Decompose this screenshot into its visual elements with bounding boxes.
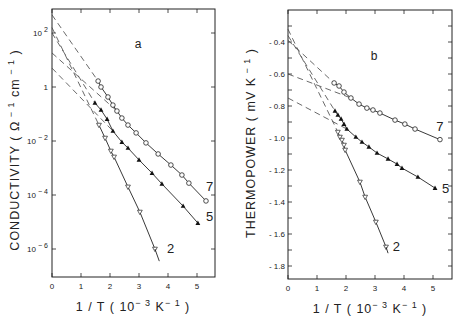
y-tick-label: - 1.4	[269, 198, 286, 207]
extrapolation-dashed-line	[52, 28, 99, 125]
y-tick-label: 10 2	[33, 26, 48, 38]
open-triangle-down-marker-icon	[112, 155, 117, 159]
y-tick-label: 10 − 6	[27, 242, 48, 254]
y-tick-label: - 0.4	[269, 38, 286, 47]
y-tick-label: - 1.2	[269, 166, 286, 175]
open-circle-marker-icon	[349, 96, 354, 101]
open-circle-marker-icon	[204, 199, 209, 204]
panel-b-thermopower-plot: 012345- 0.4- 0.6- 0.8- 1.0- 1.2- 1.4- 1.…	[242, 10, 452, 316]
series-7	[96, 79, 208, 203]
open-circle-marker-icon	[393, 118, 398, 123]
open-triangle-down-marker-icon	[97, 123, 102, 127]
open-triangle-down-marker-icon	[343, 148, 348, 152]
open-circle-marker-icon	[111, 103, 116, 108]
open-triangle-down-marker-icon	[103, 136, 108, 140]
y-tick-label: - 0.6	[269, 70, 286, 79]
filled-triangle-marker-icon	[344, 126, 349, 130]
series-label-7: 7	[436, 119, 443, 134]
filled-triangle-marker-icon	[333, 108, 338, 112]
series-line	[334, 83, 440, 140]
x-tick-label: 5	[431, 284, 436, 293]
series-line	[335, 111, 435, 188]
open-triangle-down-marker-icon	[108, 149, 113, 153]
series-7	[332, 81, 442, 142]
x-tick-label: 0	[286, 284, 291, 293]
open-circle-marker-icon	[120, 116, 125, 121]
y-tick-label: - 0.8	[269, 102, 286, 111]
open-circle-marker-icon	[134, 131, 139, 136]
open-circle-marker-icon	[342, 90, 347, 95]
open-circle-marker-icon	[337, 84, 342, 89]
open-circle-marker-icon	[144, 141, 149, 146]
series-label-7: 7	[206, 179, 213, 194]
open-circle-marker-icon	[126, 123, 131, 128]
open-circle-marker-icon	[413, 127, 418, 132]
open-circle-marker-icon	[156, 152, 161, 157]
x-tick-label: 4	[402, 284, 407, 293]
x-axis-label: 1 / T ( 10− 3 K− 1 )	[76, 298, 191, 314]
open-circle-marker-icon	[371, 108, 376, 113]
open-circle-marker-icon	[169, 163, 174, 168]
open-triangle-down-marker-icon	[342, 143, 347, 147]
filled-triangle-marker-icon	[93, 100, 98, 104]
plot-frame	[52, 9, 215, 277]
open-circle-marker-icon	[187, 181, 192, 186]
series-label-5: 5	[442, 181, 449, 196]
open-circle-marker-icon	[378, 111, 383, 116]
open-triangle-down-marker-icon	[340, 138, 345, 142]
series-line-tail	[155, 249, 159, 261]
x-tick-label: 1	[79, 282, 84, 291]
panel-letter-b: b	[371, 49, 378, 63]
series-label-2: 2	[167, 241, 174, 256]
filled-triangle-marker-icon	[367, 144, 372, 148]
y-axis-label: THERMOPOWER ( mV K − 1 )	[242, 48, 258, 238]
extrapolation-dashed-line	[288, 29, 338, 132]
y-tick-label: 10 − 2	[27, 134, 48, 146]
extrapolation-dashed-line	[288, 36, 335, 111]
series-2	[335, 130, 388, 249]
filled-triangle-marker-icon	[342, 121, 347, 125]
open-circle-marker-icon	[403, 122, 408, 127]
open-circle-marker-icon	[357, 102, 362, 107]
extrapolation-dashed-line	[52, 68, 113, 131]
open-triangle-down-marker-icon	[363, 195, 368, 199]
x-tick-label: 0	[50, 282, 55, 291]
y-tick-label: 10 − 4	[27, 188, 48, 200]
open-triangle-down-marker-icon	[137, 210, 142, 214]
series-5	[333, 108, 438, 190]
filled-triangle-marker-icon	[375, 150, 380, 154]
open-circle-marker-icon	[99, 85, 104, 90]
x-tick-label: 5	[195, 282, 200, 291]
x-tick-label: 3	[137, 282, 142, 291]
extrapolation-dashed-line	[52, 33, 95, 103]
y-tick-label: - 1.8	[269, 262, 286, 271]
filled-triangle-marker-icon	[416, 174, 421, 178]
panel-a-conductivity-plot: 01234510 2110 − 210 − 410 − 6752aCONDUCT…	[6, 9, 215, 314]
open-circle-marker-icon	[115, 109, 120, 114]
open-triangle-down-marker-icon	[126, 185, 131, 189]
y-tick-label: 1	[44, 83, 49, 92]
open-circle-marker-icon	[332, 81, 337, 86]
figure: 01234510 2110 − 210 − 410 − 6752aCONDUCT…	[0, 0, 455, 325]
open-triangle-down-marker-icon	[358, 180, 363, 184]
open-circle-marker-icon	[106, 95, 111, 100]
series-5	[93, 100, 201, 225]
open-triangle-down-marker-icon	[373, 220, 378, 224]
x-tick-label: 4	[166, 282, 171, 291]
y-axis-label: CONDUCTIVITY ( Ω − 1 cm − 1 )	[6, 49, 22, 250]
open-circle-marker-icon	[180, 173, 185, 178]
filled-triangle-marker-icon	[433, 185, 438, 189]
series-label-2: 2	[393, 239, 400, 254]
x-tick-label: 1	[315, 284, 320, 293]
series-label-5: 5	[206, 209, 213, 224]
panel-letter-a: a	[135, 37, 142, 51]
open-triangle-down-marker-icon	[335, 130, 340, 134]
y-tick-label: - 1.6	[269, 230, 286, 239]
open-circle-marker-icon	[365, 106, 370, 111]
extrapolation-dashed-line	[52, 53, 117, 111]
x-tick-label: 2	[344, 284, 349, 293]
x-tick-label: 3	[373, 284, 378, 293]
x-axis-label: 1 / T ( 10− 3 K− 1 )	[313, 300, 428, 316]
open-circle-marker-icon	[438, 137, 443, 142]
filled-triangle-marker-icon	[395, 161, 400, 165]
